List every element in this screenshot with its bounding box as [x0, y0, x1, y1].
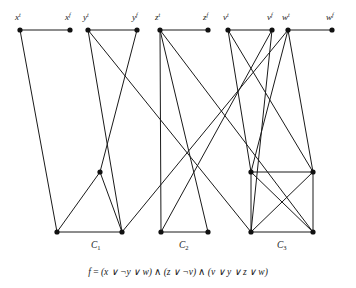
vertex-c2b[interactable] [205, 229, 210, 234]
vertex-zt[interactable] [157, 27, 162, 32]
vertex-c1b[interactable] [97, 169, 102, 174]
label-vt: vt [223, 12, 229, 22]
formula-text: f = (x ∨ ¬y ∨ w) ∧ (z ∨ ¬v) ∧ (v ∨ y ∨ z… [88, 267, 268, 278]
label-zt: zt [154, 12, 161, 22]
label-c1: C1 [91, 240, 101, 251]
vertex-c3b[interactable] [310, 169, 315, 174]
vertex-yf[interactable] [134, 27, 139, 32]
vertex-c1c[interactable] [119, 229, 124, 234]
vertex-vt[interactable] [225, 27, 230, 32]
clause-c1-edges [57, 172, 122, 232]
edge-c1b-c1c [100, 172, 122, 232]
vertex-yt[interactable] [85, 27, 90, 32]
vertex-xt[interactable] [17, 27, 22, 32]
label-c2: C2 [179, 240, 189, 251]
clause-labels: C1 C2 C3 [91, 240, 287, 251]
vertex-wt[interactable] [285, 27, 290, 32]
formula-caption: f = (x ∨ ¬y ∨ w) ∧ (z ∨ ¬v) ∧ (v ∨ y ∨ z… [88, 267, 268, 278]
vertex-c3a[interactable] [248, 169, 253, 174]
clause-c3-edges [251, 172, 313, 232]
vertex-xf[interactable] [67, 27, 72, 32]
edge-wt-c1c [122, 30, 288, 232]
vertex-c3d[interactable] [310, 229, 315, 234]
vertex-c3c[interactable] [248, 229, 253, 234]
label-xt: xt [14, 12, 21, 22]
variable-vertex-labels: xt xf yt yf zt zf vt vf [14, 12, 335, 22]
edge-yt-c1c [88, 30, 122, 232]
label-vf: vf [267, 12, 274, 22]
label-c3: C3 [277, 240, 287, 251]
vertex-c2a[interactable] [158, 229, 163, 234]
edge-xt-c1a [20, 30, 57, 232]
edge-vf-c3c [251, 30, 272, 232]
edge-vt-c3a [228, 30, 251, 172]
edge-zt-c3d [160, 30, 313, 232]
label-xf: xf [64, 12, 72, 22]
vertex-c1a[interactable] [54, 229, 59, 234]
label-wf: wf [326, 12, 335, 22]
label-zf: zf [202, 12, 210, 22]
vertex-wf[interactable] [329, 27, 334, 32]
graph-canvas: xt xf yt yf zt zf vt vf [0, 0, 356, 288]
edge-zt-c2a [160, 30, 161, 232]
cross-edges [20, 30, 313, 232]
edge-yt-c3c [88, 30, 251, 232]
edge-zt-c2b [160, 30, 208, 232]
clause-vertices [54, 169, 315, 234]
label-yt: yt [82, 12, 89, 22]
edge-c1a-c1b [57, 172, 100, 232]
edge-vf-c2a [161, 30, 272, 232]
sat-reduction-figure: xt xf yt yf zt zf vt vf [0, 0, 356, 288]
label-wt: wt [282, 12, 290, 22]
label-yf: yf [131, 12, 139, 22]
vertex-vf[interactable] [269, 27, 274, 32]
vertex-zf[interactable] [205, 27, 210, 32]
